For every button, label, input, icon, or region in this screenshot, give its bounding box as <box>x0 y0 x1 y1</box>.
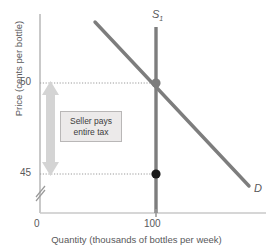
chart-figure: 50 45 0 100 Price (cents per bottle) Qua… <box>0 0 273 251</box>
annotation-line-2: entire tax <box>64 127 118 138</box>
annotation-seller-pays-entire-tax: Seller pays entire tax <box>60 111 122 142</box>
annotation-line-1: Seller pays <box>64 116 118 127</box>
y-axis-tick-label-45: 45 <box>20 167 31 178</box>
x-axis-title: Quantity (thousands of bottles per week) <box>0 234 273 245</box>
equilibrium-point-50 <box>151 78 160 87</box>
seller-net-price-point-45 <box>151 169 160 178</box>
x-axis-tick-label-0: 0 <box>34 218 40 229</box>
chart-plot-area <box>0 0 273 251</box>
y-axis-title: Price (cents per bottle) <box>13 4 24 134</box>
x-axis-tick-label-100: 100 <box>144 218 161 229</box>
demand-curve-label: D <box>254 182 262 194</box>
supply-curve-label: S1 <box>152 8 163 22</box>
supply-curve-label-subscript: 1 <box>159 15 163 22</box>
demand-curve <box>95 22 249 186</box>
tax-magnitude-arrow-icon <box>42 81 59 176</box>
